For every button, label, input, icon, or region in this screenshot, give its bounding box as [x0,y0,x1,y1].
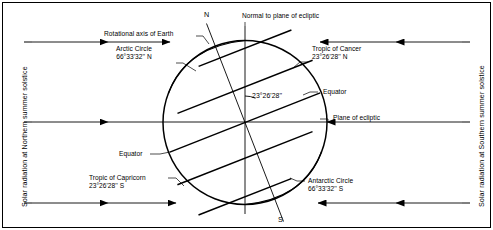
label-pole-north: N [204,10,209,19]
label-tropic-of-capricorn-name: Tropic of Capricorn [89,174,146,182]
label-arctic-circle-name: Arctic Circle [90,45,178,53]
earth-tilt-diagram-svg [0,0,493,230]
label-obliquity-angle: 23°26'28'' [252,92,282,100]
label-tropic-of-cancer-name: Tropic of Cancer [312,45,361,53]
diagram-canvas: Rotational axis of Earth Normal to plane… [0,0,493,230]
diagram-border [3,3,491,228]
label-antarctic-circle-value: 66°33'32'' S [308,185,343,193]
label-right-solar-radiation: Solar radiation at Southern summer solst… [478,65,486,207]
label-equator-lower: Equator [119,150,142,158]
label-normal-to-ecliptic: Normal to plane of ecliptic [242,12,319,20]
terminator-arc-top-left [169,41,246,94]
label-plane-of-ecliptic: Plane of ecliptic [333,114,380,122]
label-tropic-of-cancer-value: 23°26'28'' N [312,53,348,61]
label-rotational-axis: Rotational axis of Earth [104,30,173,38]
label-antarctic-circle-name: Antarctic Circle [308,177,353,185]
label-equator-upper: Equator [323,88,346,96]
label-arctic-circle-value: 66°33'32'' N [90,53,178,61]
label-left-solar-radiation: Solar radiation at Northern summer solst… [21,66,29,207]
label-pole-south: S [278,215,283,224]
label-tropic-of-capricorn-value: 23°26'28'' S [89,182,124,190]
